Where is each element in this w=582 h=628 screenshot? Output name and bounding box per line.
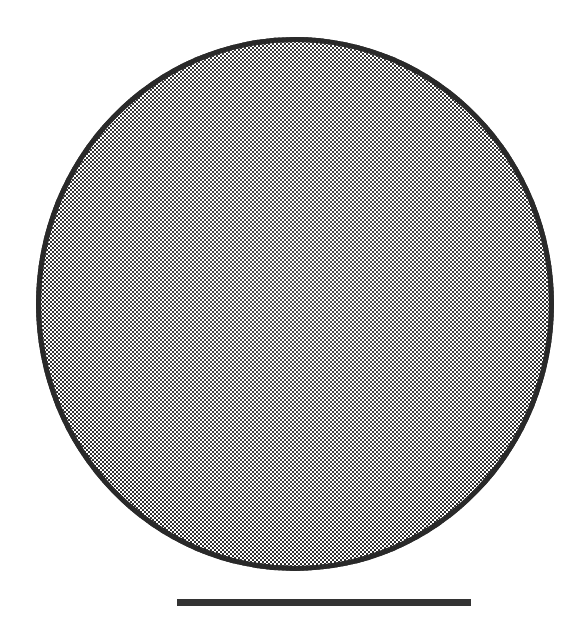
scale-bar bbox=[177, 599, 471, 606]
figure-canvas bbox=[0, 0, 582, 628]
specimen-disc bbox=[36, 37, 554, 571]
